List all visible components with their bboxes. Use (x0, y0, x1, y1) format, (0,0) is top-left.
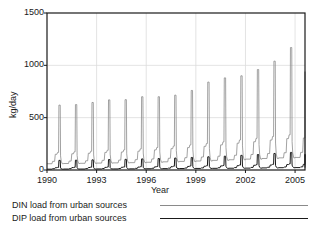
x-tick-label: 1993 (77, 175, 117, 185)
legend-entry-din: DIN load from urban sources (12, 200, 127, 210)
x-tick-label: 1996 (126, 175, 166, 185)
legend-swatch-dip (160, 218, 308, 219)
x-axis-label: Year (0, 185, 320, 195)
y-tick-label: 0 (6, 164, 44, 174)
y-tick-label: 1500 (6, 7, 44, 17)
legend-swatch-din (160, 205, 308, 206)
legend-entry-dip: DIP load from urban sources (12, 213, 126, 223)
y-tick-label: 500 (6, 112, 44, 122)
x-tick-label: 2005 (275, 175, 315, 185)
plot-area (0, 0, 320, 233)
x-tick-label: 2002 (225, 175, 265, 185)
x-tick-label: 1990 (27, 175, 67, 185)
chart-figure: kg/day Year DIN load from urban sources … (0, 0, 320, 233)
y-tick-label: 1000 (6, 59, 44, 69)
x-tick-label: 1999 (176, 175, 216, 185)
